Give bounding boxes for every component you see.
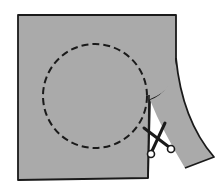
cut-line [148, 95, 149, 178]
paper-cutting-diagram [0, 0, 223, 184]
